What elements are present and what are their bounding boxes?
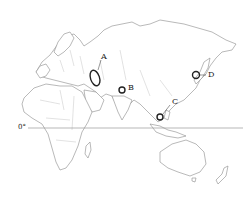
maritime-southeast-asia xyxy=(150,124,186,138)
africa xyxy=(22,84,92,170)
new-zealand xyxy=(216,166,228,184)
equator-label: 0° xyxy=(18,124,26,131)
madagascar xyxy=(85,142,91,158)
marker-a-label: A xyxy=(101,53,107,61)
marker-b-label: B xyxy=(128,84,134,92)
australia xyxy=(160,140,206,176)
marker-c-label: C xyxy=(172,98,178,106)
marker-d-label: D xyxy=(208,71,214,79)
indian-subcontinent xyxy=(112,96,132,120)
map-svg xyxy=(0,0,252,197)
tasmania xyxy=(192,178,196,182)
